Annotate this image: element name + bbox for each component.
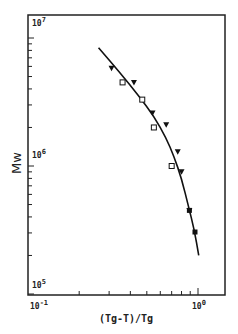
plot-frame xyxy=(28,15,225,295)
exponent: 0 xyxy=(202,299,206,307)
y-axis-label: Mw xyxy=(9,152,24,174)
filled-square-marker xyxy=(187,208,192,213)
exponent: -1 xyxy=(40,299,48,307)
x-axis-label: (Tg-T)/Tg xyxy=(99,313,153,324)
fit-curve xyxy=(99,48,199,256)
y-tick-label: 107 xyxy=(32,16,46,28)
triangle-marker xyxy=(109,66,115,72)
x-axis-ticks xyxy=(79,288,198,295)
open-square-marker xyxy=(151,125,156,130)
open-square-marker xyxy=(140,97,145,102)
data-markers xyxy=(109,66,198,235)
triangle-marker xyxy=(131,80,137,86)
open-square-marker xyxy=(169,164,174,169)
triangle-marker xyxy=(163,122,169,128)
open-square-marker xyxy=(120,80,125,85)
y-axis-tick-labels: 107106105 xyxy=(32,16,46,290)
exponent: 7 xyxy=(42,16,46,24)
exponent: 5 xyxy=(42,278,46,286)
triangle-marker xyxy=(175,149,181,155)
y-axis-ticks xyxy=(28,38,34,294)
x-tick-label: 100 xyxy=(192,299,206,311)
exponent: 6 xyxy=(42,148,46,156)
filled-square-marker xyxy=(192,230,197,235)
x-axis-tick-labels: 10-1100 xyxy=(30,299,206,311)
x-tick-label: 10-1 xyxy=(30,299,48,311)
y-tick-label: 106 xyxy=(32,148,46,160)
log-log-chart: 10-1100 107106105 (Tg-T)/Tg Mw xyxy=(0,0,238,334)
y-tick-label: 105 xyxy=(32,278,46,290)
